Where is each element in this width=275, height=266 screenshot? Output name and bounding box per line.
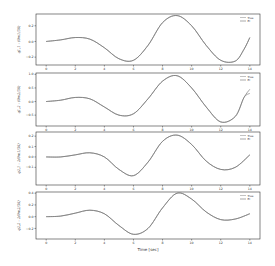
x-tick-label: 6 xyxy=(132,241,134,245)
legend-label-ei: EI xyxy=(248,137,251,141)
legend: TrueEI xyxy=(240,194,254,202)
x-tick-label: 2 xyxy=(74,241,76,245)
x-tick-label: 4 xyxy=(103,241,105,245)
x-tick-label: 0 xyxy=(45,241,47,245)
y-tick-label: 0.2 xyxy=(28,24,33,28)
x-tick-label: 2 xyxy=(74,128,76,132)
x-tick-label: 6 xyxy=(132,67,134,71)
legend-label-ei: EI xyxy=(248,197,251,201)
x-axis-label: Time [sec] xyxy=(137,247,159,252)
plot-frame xyxy=(36,192,260,239)
x-tick-label: 14 xyxy=(248,128,252,132)
x-tick-label: 6 xyxy=(132,187,134,191)
x-tick-label: 6 xyxy=(132,128,134,132)
x-tick-label: 4 xyxy=(103,187,105,191)
x-tick-label: 10 xyxy=(190,67,194,71)
y-tick-label: 0.4 xyxy=(28,191,33,195)
legend: TrueEI xyxy=(240,134,254,142)
series-line-true xyxy=(46,135,250,176)
y-tick-label: −0.5 xyxy=(26,113,34,117)
y-tick-label: 0.0 xyxy=(28,100,33,104)
y-axis-label: q1,2 - (θm2/36) xyxy=(17,85,21,114)
plot-frame xyxy=(36,14,260,65)
x-tick-label: 0 xyxy=(45,187,47,191)
y-tick-label: 0.0 xyxy=(28,215,33,219)
y-tick-label: −0.2 xyxy=(26,55,34,59)
stacked-line-charts: 02468101214−0.20.00.2q1,1 - (θm1/36)True… xyxy=(0,0,275,266)
x-tick-label: 10 xyxy=(190,187,194,191)
y-axis-label: q2,2 - 2(θm2/36) xyxy=(17,200,21,231)
legend-label-ei: EI xyxy=(248,19,251,23)
x-tick-label: 12 xyxy=(219,67,223,71)
x-tick-label: 0 xyxy=(45,67,47,71)
y-tick-label: 0.0 xyxy=(28,155,33,159)
x-tick-label: 8 xyxy=(162,241,164,245)
x-tick-label: 14 xyxy=(248,67,252,71)
x-tick-label: 10 xyxy=(190,128,194,132)
y-axis-label: q1,1 - (θm1/36) xyxy=(17,25,21,54)
legend: TrueEI xyxy=(240,75,254,83)
subplot-3: 02468101214−0.10.00.10.2q2,1 - 2(θm1/36)… xyxy=(17,132,260,191)
y-tick-label: 0.2 xyxy=(28,134,33,138)
y-tick-label: 1.0 xyxy=(28,72,33,76)
x-tick-label: 12 xyxy=(219,128,223,132)
subplot-1: 02468101214−0.20.00.2q1,1 - (θm1/36)True… xyxy=(17,14,260,71)
x-tick-label: 4 xyxy=(103,128,105,132)
x-tick-label: 8 xyxy=(162,67,164,71)
legend: TrueEI xyxy=(240,16,254,24)
y-tick-label: 0.5 xyxy=(28,86,33,90)
subplot-4: 02468101214−0.20.00.20.4q2,2 - 2(θm2/36)… xyxy=(17,191,260,245)
plot-frame xyxy=(36,73,260,126)
x-tick-label: 12 xyxy=(219,187,223,191)
legend-label-ei: EI xyxy=(248,78,251,82)
y-tick-label: −0.2 xyxy=(26,227,34,231)
y-tick-label: −0.1 xyxy=(26,165,34,169)
x-tick-label: 0 xyxy=(45,128,47,132)
y-tick-label: 0.2 xyxy=(28,203,33,207)
series-line-true xyxy=(46,75,250,122)
x-tick-label: 4 xyxy=(103,67,105,71)
x-tick-label: 2 xyxy=(74,67,76,71)
x-tick-label: 8 xyxy=(162,187,164,191)
x-tick-label: 10 xyxy=(190,241,194,245)
x-tick-label: 12 xyxy=(219,241,223,245)
x-tick-label: 14 xyxy=(248,241,252,245)
x-tick-label: 8 xyxy=(162,128,164,132)
plot-frame xyxy=(36,132,260,185)
x-tick-label: 2 xyxy=(74,187,76,191)
x-tick-label: 14 xyxy=(248,187,252,191)
series-line-ei xyxy=(46,16,250,63)
series-line-true xyxy=(46,193,250,234)
y-tick-label: 0.0 xyxy=(28,40,33,44)
y-tick-label: 0.1 xyxy=(28,145,33,149)
series-line-true xyxy=(46,16,250,63)
subplot-2: 02468101214−0.50.00.51.0q1,2 - (θm2/36)T… xyxy=(17,72,260,132)
y-axis-label: q2,1 - 2(θm1/36) xyxy=(17,143,21,174)
series-line-ei xyxy=(46,135,250,176)
